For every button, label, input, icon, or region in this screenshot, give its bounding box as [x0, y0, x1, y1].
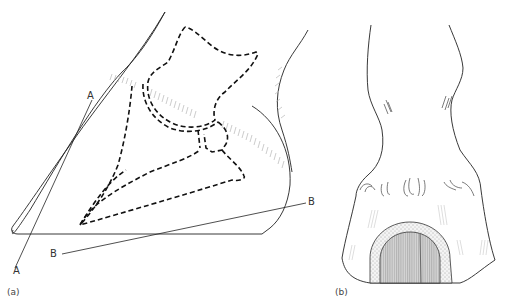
hoof-right-outline [449, 25, 495, 283]
hoof-ground-line [18, 228, 270, 234]
coronet-wrinkles [360, 96, 474, 196]
pastern-back [277, 30, 308, 172]
bones-dashed [80, 27, 258, 225]
sole-inner-shaded [380, 232, 440, 283]
heel-curve [252, 106, 290, 228]
navicular-line [80, 86, 132, 225]
coronary-band-hatching [110, 67, 285, 168]
coffin-bone [80, 150, 244, 225]
pastern-bone [148, 27, 258, 127]
panel-label-b: (b) [335, 288, 348, 297]
label-a-top: A [87, 91, 94, 101]
panel-a-lateral-view [12, 12, 308, 268]
reference-line-a [15, 100, 92, 268]
label-b-left: B [50, 249, 57, 259]
label-b-right: B [308, 197, 315, 207]
panel-b-front-view [342, 25, 495, 283]
short-pastern-bone [198, 122, 228, 152]
label-a-bottom: A [13, 266, 20, 276]
hoof-diagram [0, 0, 507, 305]
panel-label-a: (a) [7, 288, 20, 297]
hoof-wall-front [12, 12, 165, 234]
